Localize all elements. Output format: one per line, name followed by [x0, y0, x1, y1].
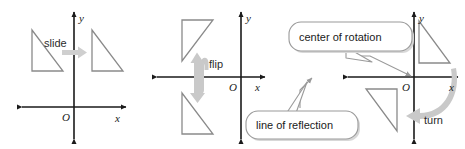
center-of-rotation-label: center of rotation	[299, 31, 382, 43]
transformations-figure: slide x y O flip x y O	[0, 0, 465, 149]
panel-translation: slide x y O	[22, 12, 126, 139]
origin-label: O	[402, 81, 410, 93]
image-triangle	[366, 89, 397, 131]
flip-label: flip	[209, 58, 223, 70]
coordinate-axes-translation	[22, 12, 126, 139]
x-axis-label: x	[254, 81, 260, 93]
y-axis-label: y	[78, 12, 84, 24]
figure-canvas: slide x y O flip x y O	[0, 0, 465, 149]
callout-center-of-rotation: center of rotation	[289, 22, 414, 76]
origin-label: O	[62, 111, 70, 123]
line-of-reflection-label: line of reflection	[256, 119, 333, 131]
x-axis-label: x	[448, 81, 454, 93]
callout-tail	[286, 82, 307, 114]
origin-label: O	[229, 81, 237, 93]
preimage-triangle	[419, 21, 450, 63]
callout-line-of-reflection: line of reflection	[246, 78, 360, 141]
image-triangle	[92, 30, 123, 71]
x-axis-label: x	[114, 112, 120, 124]
turn-label: turn	[424, 114, 443, 126]
slide-label: slide	[44, 37, 67, 49]
y-axis-label: y	[418, 12, 424, 24]
y-axis-label: y	[245, 12, 251, 24]
